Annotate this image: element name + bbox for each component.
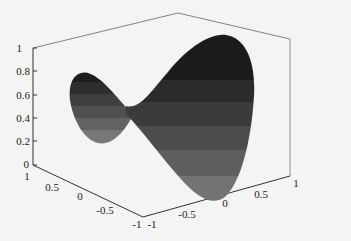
y-tick-label: -0.5 <box>178 208 196 220</box>
x-tick-label: 0.5 <box>45 181 59 193</box>
z-tick-label: 0.6 <box>16 89 30 101</box>
x-axis-ticks: 1 0.5 0 -0.5 -1 <box>24 170 141 230</box>
saddle-surface-plot: 1 0.8 0.6 0.4 0.2 0 1 0.5 0 -0.5 -1 -1 -… <box>0 0 351 241</box>
x-tick-label: -1 <box>132 218 141 230</box>
surface-left-lobe <box>60 60 140 150</box>
y-tick-label: 0 <box>222 197 228 209</box>
axes-box-back <box>33 13 290 48</box>
x-tick-label: -0.5 <box>96 204 114 216</box>
y-tick-label: 0.5 <box>254 188 268 200</box>
y-tick-label: -1 <box>147 218 156 230</box>
x-tick-label: 1 <box>24 170 30 182</box>
z-tick-label: 0.8 <box>16 65 30 77</box>
z-tick-label: 0.2 <box>16 135 30 147</box>
z-tick-label: 1 <box>17 42 23 54</box>
x-tick-label: 0 <box>77 190 83 202</box>
z-tick-label: 0.4 <box>16 112 30 124</box>
z-tick-label: 0 <box>24 158 30 170</box>
surface-right-lobe <box>120 25 260 206</box>
z-axis-ticks: 1 0.8 0.6 0.4 0.2 0 <box>16 42 37 170</box>
y-tick-label: 1 <box>293 177 299 189</box>
